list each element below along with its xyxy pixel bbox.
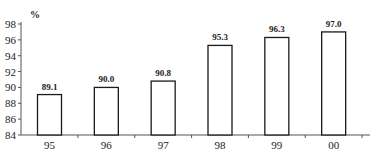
y-tick-label: 98: [5, 18, 17, 30]
x-axis: 959697989900: [21, 135, 370, 151]
bar-chart: % 8486889092949698 959697989900 89.190.0…: [0, 0, 371, 159]
bar-99: [265, 37, 289, 135]
bar-97: [151, 81, 175, 135]
y-tick-label: 92: [5, 66, 16, 78]
bar-value-label: 90.0: [98, 74, 114, 84]
y-tick-label: 90: [5, 81, 17, 93]
y-tick-label: 96: [5, 34, 17, 46]
y-tick-label: 84: [5, 129, 17, 141]
y-tick-label: 86: [5, 113, 17, 125]
y-tick-label: 94: [5, 50, 17, 62]
bar-00: [322, 32, 346, 135]
bar-value-label: 95.3: [212, 32, 228, 42]
x-category-label: 98: [215, 139, 227, 151]
x-category-label: 96: [101, 139, 113, 151]
y-tick-label: 88: [5, 97, 17, 109]
bar-98: [208, 45, 232, 135]
bar-value-label: 90.8: [155, 68, 171, 78]
bar-value-label: 97.0: [326, 19, 342, 29]
bars: 89.190.090.895.396.397.0: [38, 19, 346, 135]
x-category-label: 99: [271, 139, 283, 151]
bar-96: [94, 87, 118, 135]
y-axis-unit-label: %: [30, 9, 40, 20]
x-category-label: 00: [328, 139, 340, 151]
x-category-label: 95: [44, 139, 56, 151]
y-axis: 8486889092949698: [5, 18, 21, 141]
bar-value-label: 89.1: [42, 82, 58, 92]
bar-value-label: 96.3: [269, 24, 285, 34]
bar-95: [38, 95, 62, 135]
x-category-label: 97: [158, 139, 170, 151]
